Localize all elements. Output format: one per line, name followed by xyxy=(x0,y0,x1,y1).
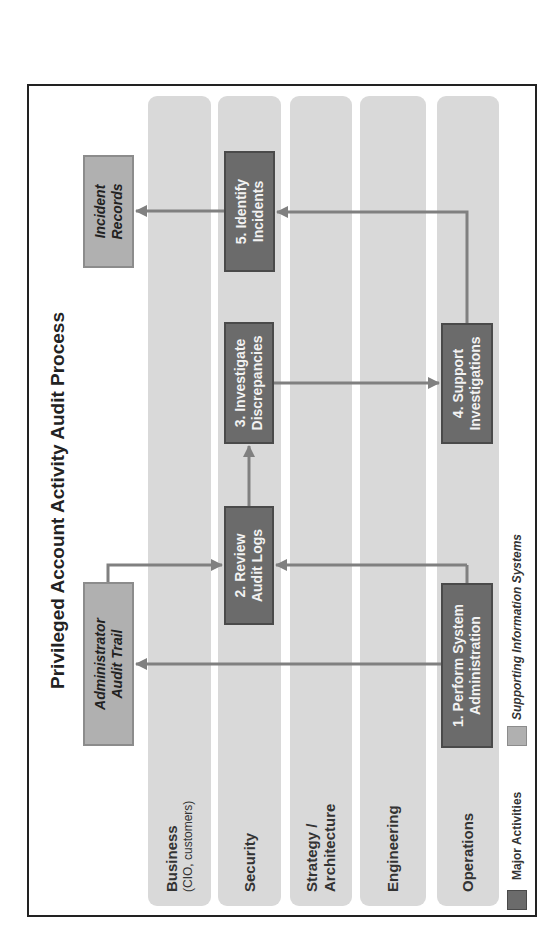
legend-supporting-swatch xyxy=(507,726,527,746)
box-line: Discrepancies xyxy=(249,336,266,431)
legend-major-label: Major Activities xyxy=(507,792,527,880)
lane-sublabel: (CIO, customers) xyxy=(181,801,196,892)
lane-label: Engineering xyxy=(384,805,402,892)
lane-label: Business xyxy=(163,801,181,892)
box-line: Incident xyxy=(92,183,109,239)
box-line: Records xyxy=(109,183,126,239)
activity-4-support-investigations: 4. Support Investigations xyxy=(441,323,493,444)
activity-5-identify-incidents: 5. Identify Incidents xyxy=(224,151,275,272)
lane-engineering: Engineering xyxy=(360,96,426,906)
lane-label-line2: Architecture xyxy=(321,804,339,892)
diagram-title: Privileged Account Activity Audit Proces… xyxy=(44,84,72,917)
lane-strategy-architecture: Strategy / Architecture xyxy=(290,96,352,906)
lane-label: Security xyxy=(241,833,259,892)
lane-label: Strategy / xyxy=(303,804,321,892)
diagram-canvas: Privileged Account Activity Audit Proces… xyxy=(0,0,560,950)
box-line: 1. Perform System xyxy=(450,604,467,727)
box-line: 2. Review xyxy=(232,529,249,602)
activity-1-perform-system-administration: 1. Perform System Administration xyxy=(441,583,493,748)
activity-3-investigate-discrepancies: 3. Investigate Discrepancies xyxy=(224,322,274,444)
box-line: 3. Investigate xyxy=(232,336,249,431)
box-line: Audit Trail xyxy=(109,618,126,710)
legend-major-swatch xyxy=(507,890,527,910)
lane-label: Operations xyxy=(459,813,477,892)
lane-business: Business (CIO, customers) xyxy=(148,96,211,906)
box-line: Investigations xyxy=(467,336,484,430)
activity-2-review-audit-logs: 2. Review Audit Logs xyxy=(224,506,274,625)
box-line: Incidents xyxy=(250,179,267,244)
admin-audit-trail-box: Administrator Audit Trail xyxy=(83,582,134,746)
incident-records-box: Incident Records xyxy=(83,155,134,268)
box-line: Administrator xyxy=(92,618,109,710)
box-line: Administration xyxy=(467,604,484,727)
box-line: Audit Logs xyxy=(249,529,266,602)
lane-operations: Operations xyxy=(437,96,499,906)
box-line: 5. Identify xyxy=(233,179,250,244)
box-line: 4. Support xyxy=(450,336,467,430)
legend-supporting-label: Supporting Information Systems xyxy=(507,534,527,720)
